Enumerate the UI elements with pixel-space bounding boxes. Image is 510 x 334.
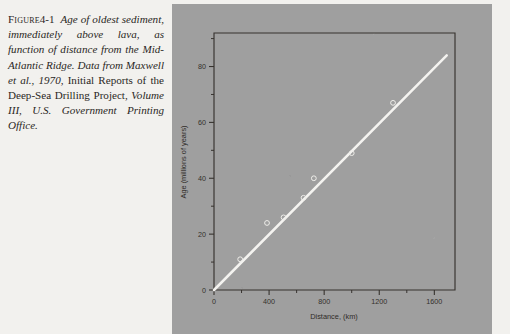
trend-line bbox=[214, 55, 447, 290]
x-tick-label: 800 bbox=[318, 297, 330, 306]
y-tick-label: 20 bbox=[198, 230, 206, 239]
chart-frame bbox=[214, 33, 455, 290]
y-tick-label: 40 bbox=[198, 174, 206, 183]
figure-plate: 020406080 040080012001600 Distance, (km)… bbox=[172, 4, 492, 334]
data-point-marker bbox=[311, 176, 316, 181]
data-point-marker bbox=[391, 100, 396, 105]
y-tick-label: 80 bbox=[198, 62, 206, 71]
y-tick-label: 60 bbox=[198, 118, 206, 127]
x-tick-label: 0 bbox=[212, 297, 216, 306]
y-axis-ticks: 020406080 bbox=[198, 39, 214, 295]
data-points bbox=[238, 100, 396, 261]
x-axis-title: Distance, (km) bbox=[310, 312, 358, 321]
y-tick-label: 0 bbox=[202, 286, 206, 295]
y-axis-title: Age (millions of years) bbox=[179, 125, 188, 198]
x-tick-label: 1200 bbox=[371, 297, 387, 306]
figure-caption: Figure4-1 Age of oldest sediment, immedi… bbox=[8, 12, 164, 134]
x-tick-label: 400 bbox=[263, 297, 275, 306]
figure-caption-number: 4-1 bbox=[40, 13, 55, 25]
figure-container: Figure4-1 Age of oldest sediment, immedi… bbox=[0, 0, 510, 334]
data-point-marker bbox=[265, 221, 270, 226]
x-tick-label: 1600 bbox=[426, 297, 442, 306]
x-axis-ticks: 040080012001600 bbox=[212, 290, 442, 306]
scatter-chart: 020406080 040080012001600 Distance, (km)… bbox=[172, 4, 492, 334]
data-point-marker bbox=[238, 257, 243, 262]
figure-caption-label: Figure bbox=[8, 13, 40, 25]
